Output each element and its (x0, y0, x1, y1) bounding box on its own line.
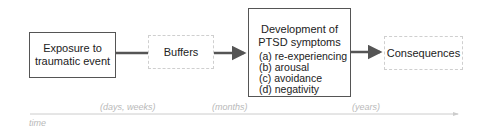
exposure-node: Exposure to traumatic event (29, 32, 116, 78)
symptom-list: (a) re-experiencing (b) arousal (c) avoi… (249, 51, 347, 95)
consequences-node: Consequences (384, 36, 463, 70)
timeline-label-days-weeks: (days, weeks) (100, 102, 156, 112)
timeline-label-years: (years) (352, 102, 380, 112)
buffers-label: Buffers (164, 46, 199, 59)
timeline-axis-label: time (29, 118, 46, 128)
development-node: Development of PTSD symptoms (a) re-expe… (248, 8, 351, 97)
timeline-label-months: (months) (212, 102, 248, 112)
exposure-line-2: traumatic event (35, 55, 110, 68)
development-title-2: PTSD symptoms (258, 36, 341, 49)
exposure-line-1: Exposure to (43, 42, 102, 55)
symptom-item: (d) negativity (259, 84, 347, 95)
buffers-node: Buffers (148, 35, 214, 69)
development-title-1: Development of (261, 23, 338, 36)
consequences-label: Consequences (387, 47, 460, 60)
